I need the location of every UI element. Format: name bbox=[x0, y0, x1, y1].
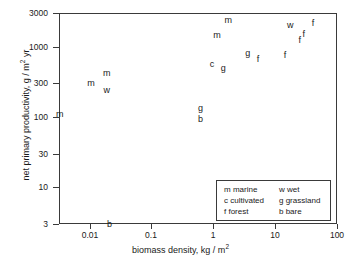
data-point-f: f bbox=[284, 50, 287, 59]
x-tick-label: 1 bbox=[211, 231, 216, 240]
x-tick-label: 0.1 bbox=[145, 231, 157, 240]
data-point-f: f bbox=[257, 55, 260, 64]
y-axis-label: net primary productivity, g / m2 yr bbox=[21, 25, 31, 205]
data-point-f: f bbox=[303, 30, 306, 39]
x-axis-label: biomass density, kg / m2 bbox=[0, 245, 361, 255]
legend-entry-primary: f forest bbox=[224, 207, 279, 217]
legend-entry-secondary: g grassland bbox=[279, 196, 330, 206]
x-tick-label: 0.01 bbox=[82, 231, 99, 240]
data-point-m: m bbox=[103, 69, 111, 78]
y-tick-mark bbox=[53, 47, 59, 48]
legend-entry-primary: c cultivated bbox=[224, 196, 279, 206]
x-tick-label: 10 bbox=[270, 231, 279, 240]
data-point-b: b bbox=[107, 219, 112, 228]
x-tick-mark bbox=[275, 224, 276, 229]
y-tick-label: 1000 bbox=[29, 43, 48, 52]
data-point-g: g bbox=[221, 63, 226, 72]
x-tick-label: 100 bbox=[330, 231, 344, 240]
y-tick-mark bbox=[53, 224, 59, 225]
data-point-f: f bbox=[312, 18, 315, 27]
data-point-g: g bbox=[245, 48, 250, 57]
y-tick-label: 30 bbox=[39, 150, 48, 159]
legend-row: m marinew wet bbox=[224, 185, 330, 196]
legend-entry-secondary: w wet bbox=[279, 185, 330, 195]
data-point-m: m bbox=[87, 79, 95, 88]
x-tick-mark bbox=[213, 224, 214, 229]
data-point-m: m bbox=[213, 31, 221, 40]
y-tick-label: 3 bbox=[43, 220, 48, 229]
legend-box: m marinew wetc cultivatedg grasslandf fo… bbox=[216, 180, 331, 221]
y-tick-mark bbox=[53, 154, 59, 155]
data-point-b: b bbox=[198, 115, 203, 124]
y-tick-label: 3000 bbox=[29, 9, 48, 18]
data-point-w: w bbox=[104, 85, 111, 94]
legend-row: c cultivatedg grassland bbox=[224, 196, 330, 207]
scatter-plot-figure: 3000100030010030103 0.010.1110100 mmmwbg… bbox=[0, 0, 361, 267]
y-tick-label: 300 bbox=[34, 79, 48, 88]
y-tick-mark bbox=[53, 13, 59, 14]
data-point-w: w bbox=[287, 21, 294, 30]
y-tick-label: 10 bbox=[39, 183, 48, 192]
legend-row: f forestb bare bbox=[224, 207, 330, 218]
legend-entry-secondary: b bare bbox=[279, 207, 330, 217]
y-tick-mark bbox=[53, 187, 59, 188]
y-tick-mark bbox=[53, 83, 59, 84]
x-tick-mark bbox=[151, 224, 152, 229]
y-tick-label: 100 bbox=[34, 113, 48, 122]
data-point-g: g bbox=[198, 103, 203, 112]
data-point-m: m bbox=[225, 15, 233, 24]
legend-entry-primary: m marine bbox=[224, 185, 279, 195]
data-point-f: f bbox=[299, 35, 302, 44]
data-point-m: m bbox=[56, 110, 64, 119]
data-point-c: c bbox=[210, 60, 215, 69]
x-tick-mark bbox=[90, 224, 91, 229]
x-tick-mark bbox=[337, 224, 338, 229]
